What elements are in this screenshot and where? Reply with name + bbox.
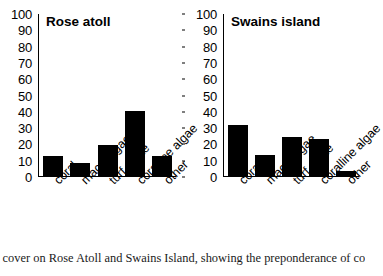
- bar-slot: [66, 14, 93, 176]
- y-tick-mark: [182, 144, 185, 145]
- x-axis-labels-swains-island: coralmacroalgaeturf algaecoralline algae…: [223, 178, 359, 238]
- y-tick-mark: [182, 95, 185, 96]
- figure-caption: c cover on Rose Atoll and Swains Island,…: [0, 250, 365, 266]
- y-tick-mark: [182, 30, 185, 31]
- chart-panels: Rose atoll 0102030405060708090100 coralm…: [0, 6, 365, 238]
- y-tick-label: 80: [18, 40, 32, 53]
- y-tick-mark: [182, 14, 185, 15]
- bar-slot: [251, 14, 278, 176]
- y-tick-mark: [182, 111, 185, 112]
- y-tick-mark: [182, 177, 185, 178]
- y-tick-label: 0: [25, 171, 32, 184]
- y-tick-label: 30: [203, 122, 217, 135]
- x-axis-labels-rose-atoll: coralmacroalgaeturf algaecoralline algae…: [38, 178, 176, 238]
- y-axis-ticks-rose-atoll: 0102030405060708090100: [0, 14, 36, 177]
- y-tick-label: 60: [18, 73, 32, 86]
- y-axis-ticks-swains-island: 0102030405060708090100: [185, 14, 221, 177]
- y-tick-label: 30: [18, 122, 32, 135]
- bar-slot: [224, 14, 251, 176]
- y-tick-label: 40: [203, 105, 217, 118]
- y-tick-mark: [182, 79, 185, 80]
- y-tick-label: 10: [18, 154, 32, 167]
- y-tick-mark: [182, 160, 185, 161]
- y-tick-label: 70: [203, 56, 217, 69]
- y-tick-label: 100: [11, 8, 32, 21]
- y-tick-mark: [182, 46, 185, 47]
- y-tick-label: 50: [203, 89, 217, 102]
- bar-slot: [39, 14, 66, 176]
- y-tick-label: 40: [18, 105, 32, 118]
- y-tick-mark: [182, 62, 185, 63]
- y-tick-mark: [182, 128, 185, 129]
- chart-panel-swains-island: Swains island 0102030405060708090100 cor…: [183, 6, 365, 238]
- y-tick-label: 70: [18, 56, 32, 69]
- y-tick-label: 60: [203, 73, 217, 86]
- y-tick-label: 20: [18, 138, 32, 151]
- chart-panel-rose-atoll: Rose atoll 0102030405060708090100 coralm…: [0, 6, 183, 238]
- y-tick-label: 20: [203, 138, 217, 151]
- y-tick-label: 90: [203, 24, 217, 37]
- y-tick-label: 100: [196, 8, 217, 21]
- y-tick-label: 50: [18, 89, 32, 102]
- y-tick-label: 90: [18, 24, 32, 37]
- y-tick-label: 10: [203, 154, 217, 167]
- y-tick-label: 80: [203, 40, 217, 53]
- y-tick-label: 0: [210, 171, 217, 184]
